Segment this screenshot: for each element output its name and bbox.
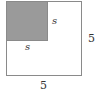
outer-bottom-label: 5 xyxy=(40,80,47,91)
inner-right-label: s xyxy=(52,16,57,26)
outer-right-label: 5 xyxy=(88,33,95,44)
shaded-inner-square xyxy=(6,1,48,41)
inner-bottom-label: s xyxy=(25,42,30,52)
